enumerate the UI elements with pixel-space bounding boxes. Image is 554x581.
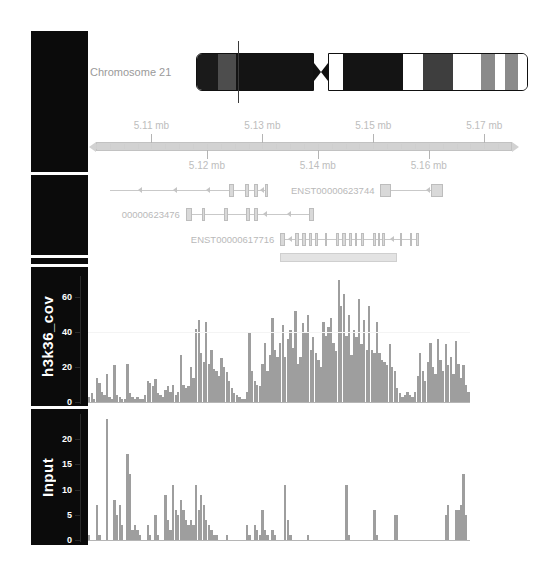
coverage-bar bbox=[345, 485, 347, 540]
ruler-minor-tick bbox=[498, 144, 499, 149]
transcript-exon bbox=[265, 184, 269, 197]
ideogram-band-0 bbox=[197, 54, 218, 90]
ruler-minor-tick bbox=[387, 144, 388, 149]
ideogram-band-3 bbox=[329, 54, 343, 90]
ruler-minor-tick bbox=[96, 144, 97, 149]
transcript-exon bbox=[254, 208, 258, 221]
ruler-minor-tick bbox=[179, 144, 180, 149]
transcript-exon bbox=[309, 233, 312, 246]
ideogram-band-7 bbox=[453, 54, 482, 90]
ruler-minor-tick bbox=[304, 144, 305, 149]
transcript-exon bbox=[361, 233, 363, 246]
coverage-bar bbox=[465, 515, 467, 540]
centromere-left bbox=[314, 63, 321, 81]
ruler-label-above: 5.11 mb bbox=[134, 120, 169, 131]
genome-browser-view: Chromosome 215.11 mb5.13 mb5.15 mb5.17 m… bbox=[0, 0, 554, 581]
transcript-exon bbox=[202, 208, 206, 221]
y-axis-tick bbox=[75, 464, 81, 465]
transcript-exon bbox=[431, 184, 444, 197]
ruler-tick-below bbox=[318, 150, 319, 159]
ideogram-position-marker bbox=[238, 41, 239, 103]
ruler-minor-tick bbox=[221, 144, 222, 149]
ruler-tick-below bbox=[429, 150, 430, 159]
coverage-gridline bbox=[88, 332, 470, 333]
coverage-bar bbox=[121, 525, 123, 540]
ideogram-band-11 bbox=[518, 54, 528, 90]
transcript-exon bbox=[302, 233, 306, 246]
gutter-ideogram bbox=[31, 31, 88, 172]
ruler-minor-tick bbox=[457, 144, 458, 149]
ruler-minor-tick bbox=[332, 144, 333, 149]
centromere-right bbox=[321, 63, 328, 81]
transcript-exon bbox=[229, 184, 233, 197]
coverage-bar bbox=[396, 515, 398, 540]
ruler-label-below: 5.14 mb bbox=[300, 160, 336, 171]
highlighted-region-bar bbox=[280, 253, 397, 262]
coverage-baseline bbox=[88, 402, 470, 403]
y-axis-tick bbox=[75, 297, 81, 298]
transcript-exon bbox=[254, 184, 258, 197]
ruler-minor-tick bbox=[276, 144, 277, 149]
ruler-minor-tick bbox=[484, 144, 485, 149]
transcript-exon bbox=[280, 233, 285, 246]
ideogram-band-1 bbox=[218, 54, 236, 90]
y-axis-line-Input bbox=[80, 414, 81, 542]
ruler-minor-tick bbox=[138, 144, 139, 149]
transcript-exon bbox=[380, 184, 391, 197]
transcript-strand-arrow bbox=[288, 236, 292, 242]
transcript-exon bbox=[382, 233, 385, 246]
ideogram-band-4 bbox=[343, 54, 403, 90]
ruler-label-below: 5.12 mb bbox=[189, 160, 225, 171]
ruler-minor-tick bbox=[207, 144, 208, 149]
ideogram-band-5 bbox=[403, 54, 423, 90]
gutter-spacer bbox=[31, 258, 88, 264]
transcript-exon bbox=[224, 208, 228, 221]
ruler-minor-tick bbox=[318, 144, 319, 149]
ruler-minor-tick bbox=[290, 144, 291, 149]
ideogram-band-2 bbox=[236, 54, 314, 90]
ideogram-band-8 bbox=[481, 54, 495, 90]
ideogram-band-6 bbox=[423, 54, 453, 90]
ruler-tick-above bbox=[262, 134, 263, 143]
ideogram-p-arm bbox=[196, 53, 314, 91]
ruler-minor-tick bbox=[110, 144, 111, 149]
ruler-tick-below bbox=[207, 150, 208, 159]
y-axis-tick bbox=[75, 332, 81, 333]
transcript-label: ENST00000623744 bbox=[291, 185, 374, 196]
coverage-bar bbox=[106, 419, 108, 540]
y-axis-tick bbox=[75, 540, 81, 541]
transcript-strand-arrow bbox=[206, 187, 210, 193]
transcript-label: ENST00000617716 bbox=[191, 234, 274, 245]
transcript-exon bbox=[378, 233, 381, 246]
transcript-label: 00000623476 bbox=[122, 209, 180, 220]
ruler-minor-tick bbox=[151, 144, 152, 149]
ruler-minor-tick bbox=[249, 144, 250, 149]
ruler-minor-tick bbox=[429, 144, 430, 149]
transcript-exon bbox=[315, 233, 318, 246]
ideogram-q-arm bbox=[328, 53, 528, 91]
y-axis-tick bbox=[75, 402, 81, 403]
y-axis-tick bbox=[75, 367, 81, 368]
transcript-strand-arrow bbox=[287, 211, 291, 217]
coverage-plot-Input bbox=[88, 414, 470, 540]
ruler-minor-tick bbox=[359, 144, 360, 149]
ideogram-band-10 bbox=[505, 54, 519, 90]
ruler-tick-above bbox=[484, 134, 485, 143]
ruler-minor-tick bbox=[470, 144, 471, 149]
ruler-left-arrow bbox=[89, 142, 96, 152]
transcript-exon bbox=[373, 233, 376, 246]
ruler-minor-tick bbox=[262, 144, 263, 149]
ruler-label-above: 5.17 mb bbox=[466, 120, 502, 131]
transcript-exon bbox=[186, 208, 192, 221]
transcript-exon bbox=[349, 233, 352, 246]
y-axis-line-h3k36_cov bbox=[80, 276, 81, 404]
ruler-label-below: 5.16 mb bbox=[411, 160, 447, 171]
transcript-strand-arrow bbox=[173, 187, 177, 193]
ruler-minor-tick bbox=[235, 144, 236, 149]
transcript-exon bbox=[355, 233, 358, 246]
chromosome-label: Chromosome 21 bbox=[90, 66, 171, 78]
ruler-minor-tick bbox=[401, 144, 402, 149]
transcript-strand-arrow bbox=[138, 187, 142, 193]
track-title-h3k36_cov: h3k36_cov bbox=[39, 267, 56, 406]
transcript-exon bbox=[295, 233, 299, 246]
